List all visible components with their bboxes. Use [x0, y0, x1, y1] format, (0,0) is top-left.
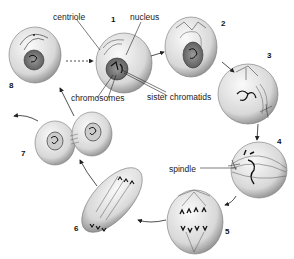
cell-stage-5 — [167, 190, 223, 254]
stage-number-2: 2 — [221, 20, 225, 28]
cell-stage-6 — [71, 158, 153, 243]
cell-stage-1 — [96, 33, 152, 93]
label-sister-chromatids: sister chromatids — [147, 93, 211, 102]
mitosis-diagram: centriole nucleus chromosomes sister chr… — [0, 0, 294, 259]
cell-stage-7 — [35, 112, 112, 165]
cell-stage-4 — [228, 142, 287, 198]
cell-stage-8 — [9, 27, 61, 83]
stage-number-6: 6 — [74, 225, 78, 233]
diagram-graphics — [0, 0, 294, 259]
cell-stage-2 — [165, 17, 217, 77]
stage-number-3: 3 — [267, 52, 271, 60]
label-spindle: spindle — [169, 165, 196, 174]
stage-number-4: 4 — [277, 138, 281, 146]
label-nucleus: nucleus — [130, 13, 159, 22]
stage-number-1: 1 — [111, 16, 115, 24]
stage-number-8: 8 — [9, 82, 13, 90]
stage-number-7: 7 — [21, 150, 25, 158]
cell-stage-3 — [218, 64, 278, 124]
stage-number-5: 5 — [225, 228, 229, 236]
label-centriole: centriole — [53, 13, 85, 22]
label-chromosomes: chromosomes — [71, 94, 124, 103]
